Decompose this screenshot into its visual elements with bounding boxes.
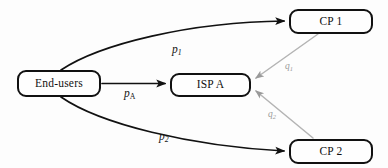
node-cp-1-label: CP 1 — [319, 16, 342, 28]
edge-label-p1-sub: 1 — [178, 48, 182, 57]
edge-label-q1: q1 — [285, 62, 293, 72]
edge-label-p2: p2 — [159, 131, 169, 144]
edge-label-q2: q2 — [268, 110, 276, 120]
edge-label-pA-sub: A — [130, 92, 136, 101]
edge-label-p2-sub: 2 — [165, 135, 169, 144]
edge-p2-path — [61, 97, 284, 151]
node-cp-2[interactable]: CP 2 — [289, 139, 373, 164]
node-isp-a-label: ISP A — [197, 79, 225, 91]
node-cp-2-label: CP 2 — [319, 146, 342, 158]
edge-label-q1-sub: 1 — [290, 65, 293, 72]
node-isp-a[interactable]: ISP A — [170, 73, 251, 97]
edge-label-q2-sub: 2 — [273, 113, 276, 120]
node-cp-1[interactable]: CP 1 — [289, 9, 373, 34]
diagram-canvas: End-users ISP A CP 1 CP 2 p1 pA p2 q1 q2 — [0, 0, 388, 168]
edge-q2-path — [256, 91, 313, 138]
node-end-users-label: End-users — [35, 78, 83, 90]
edge-label-p1: p1 — [172, 44, 182, 57]
node-end-users[interactable]: End-users — [17, 70, 101, 97]
edge-label-pA: pA — [124, 88, 135, 101]
